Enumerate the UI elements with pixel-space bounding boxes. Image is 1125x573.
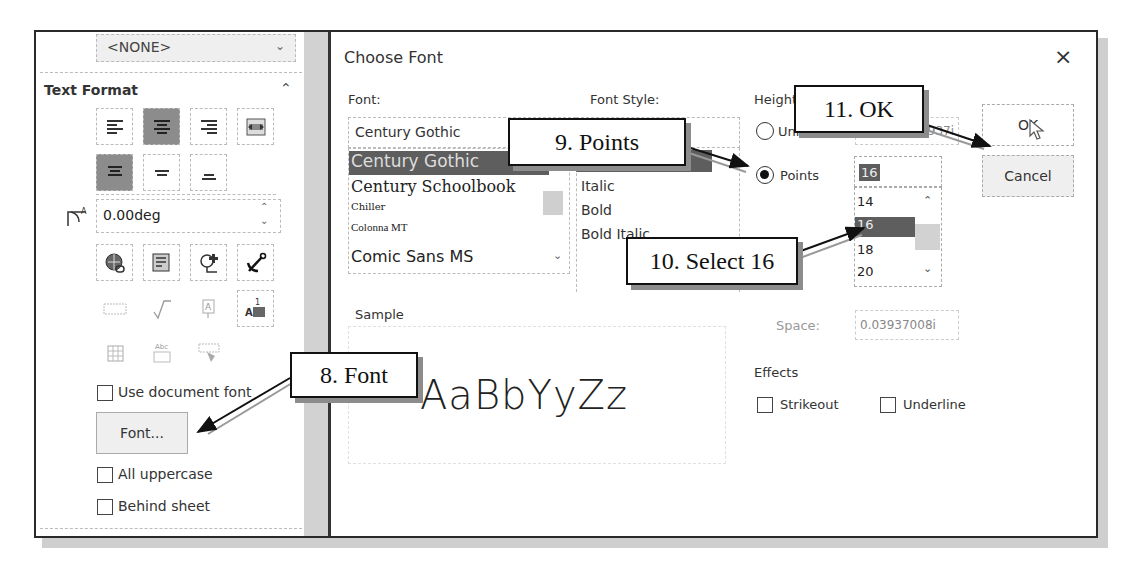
callout-step-8: 8. Font [290, 352, 418, 398]
callout-step-10: 10. Select 16 [626, 237, 798, 285]
callout-step-11: 11. OK [794, 85, 924, 133]
callout-step-9: 9. Points [508, 118, 686, 166]
callout-arrows [0, 0, 1125, 573]
